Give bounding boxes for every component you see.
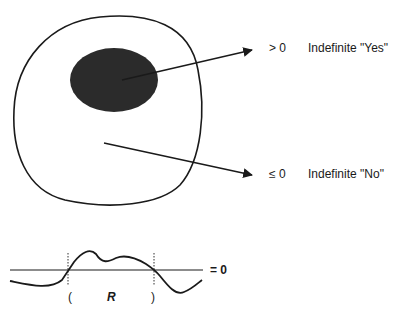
label-equals-zero: = 0 [210, 263, 227, 277]
label-paren-open: ( [68, 290, 72, 304]
label-indefinite-yes: Indefinite "Yes" [308, 41, 388, 55]
label-greater-zero: > 0 [269, 41, 286, 55]
label-indefinite-no: Indefinite "No" [308, 167, 384, 181]
label-paren-close: ) [151, 290, 155, 304]
label-region-r: R [107, 290, 116, 304]
inner-shaded-region [70, 48, 158, 112]
arrow-no [104, 143, 252, 175]
function-curve [10, 251, 202, 293]
label-less-equal-zero: ≤ 0 [269, 167, 286, 181]
